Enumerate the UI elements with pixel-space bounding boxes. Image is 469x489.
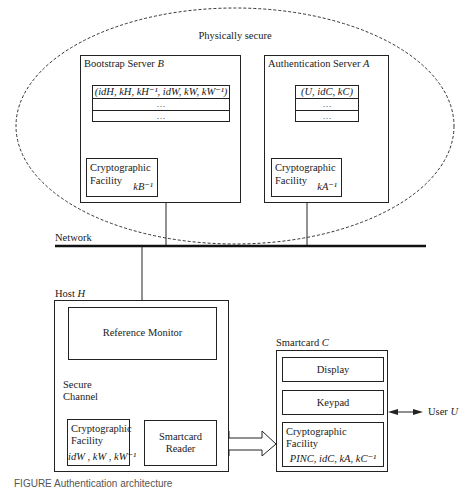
network-label: Network	[55, 232, 92, 244]
auth-server-box: Authentication Server A (U, idC, kC) … ……	[264, 55, 389, 203]
crypto-label-line2: Facility	[286, 438, 318, 450]
crypto-keys: idW , kW , kW⁻¹	[68, 451, 129, 463]
auth-table-row: (U, idC, kC)	[296, 86, 358, 98]
secure-channel-label-line2: Channel	[63, 391, 98, 403]
display-label: Display	[283, 364, 383, 376]
keypad-label: Keypad	[283, 397, 383, 409]
user-label-var: U	[450, 406, 458, 417]
user-arrow-left-icon	[388, 409, 398, 415]
bootstrap-crypto-facility: Cryptographic Facility kB⁻¹	[86, 158, 158, 197]
keypad-box: Keypad	[282, 390, 384, 415]
crypto-key: kB⁻¹	[133, 181, 153, 193]
reference-monitor-label: Reference Monitor	[69, 327, 216, 339]
user-label: User U	[428, 406, 458, 418]
crypto-label-line1: Cryptographic	[90, 162, 151, 174]
crypto-label-line1: Cryptographic	[71, 423, 132, 435]
bootstrap-server-box: Bootstrap Server B (idH, kH, kH⁻¹, idW, …	[80, 55, 241, 203]
auth-table-row: …	[296, 110, 358, 123]
auth-server-title-var: A	[363, 58, 369, 69]
smartcard-title-var: C	[322, 337, 329, 348]
secure-channel-label-line1: Secure	[63, 379, 92, 391]
figure-caption: FIGURE Authentication architecture	[14, 478, 172, 489]
crypto-keys: PINC, idC, kA, kC⁻¹	[283, 453, 383, 465]
bootstrap-table-row: (idH, kH, kH⁻¹, idW, kW, kW⁻¹)	[93, 86, 229, 98]
bootstrap-server-title: Bootstrap Server B	[84, 58, 164, 70]
smartcard-reader-line1: Smartcard	[145, 431, 216, 443]
crypto-label-line1: Cryptographic	[286, 426, 347, 438]
host-title: Host H	[55, 288, 85, 300]
secure-zone-label: Physically secure	[185, 30, 285, 42]
user-label-text: User	[428, 406, 448, 417]
user-arrow-right-icon	[413, 409, 423, 415]
bootstrap-server-title-text: Bootstrap Server	[84, 58, 155, 69]
smartcard-reader-line2: Reader	[145, 443, 216, 455]
crypto-label-line2: Facility	[90, 175, 122, 187]
reference-monitor-box: Reference Monitor	[68, 307, 217, 360]
smartcard-box: Display Keypad Cryptographic Facility PI…	[276, 350, 388, 472]
host-crypto-facility: Cryptographic Facility idW , kW , kW⁻¹	[67, 419, 130, 466]
host-title-text: Host	[55, 288, 75, 299]
auth-server-title-text: Authentication Server	[268, 58, 360, 69]
crypto-label-line2: Facility	[275, 175, 307, 187]
smartcard-crypto-facility: Cryptographic Facility PINC, idC, kA, kC…	[282, 422, 384, 467]
host-title-var: H	[77, 288, 85, 299]
display-box: Display	[282, 357, 384, 382]
auth-server-title: Authentication Server A	[268, 58, 369, 70]
bootstrap-table-row: …	[93, 110, 229, 123]
host-box: Reference Monitor Secure Channel Cryptog…	[54, 300, 229, 472]
crypto-label-line2: Facility	[71, 435, 103, 447]
auth-table: (U, idC, kC) … …	[295, 85, 359, 122]
bootstrap-server-title-var: B	[158, 58, 164, 69]
smartcard-title-text: Smartcard	[276, 337, 319, 348]
crypto-key: kA⁻¹	[317, 181, 337, 193]
smartcard-reader-box: Smartcard Reader	[144, 420, 217, 466]
crypto-label-line1: Cryptographic	[275, 162, 336, 174]
bootstrap-table: (idH, kH, kH⁻¹, idW, kW, kW⁻¹) … …	[92, 85, 230, 122]
smartcard-title: Smartcard C	[276, 337, 329, 349]
auth-crypto-facility: Cryptographic Facility kA⁻¹	[271, 158, 342, 197]
